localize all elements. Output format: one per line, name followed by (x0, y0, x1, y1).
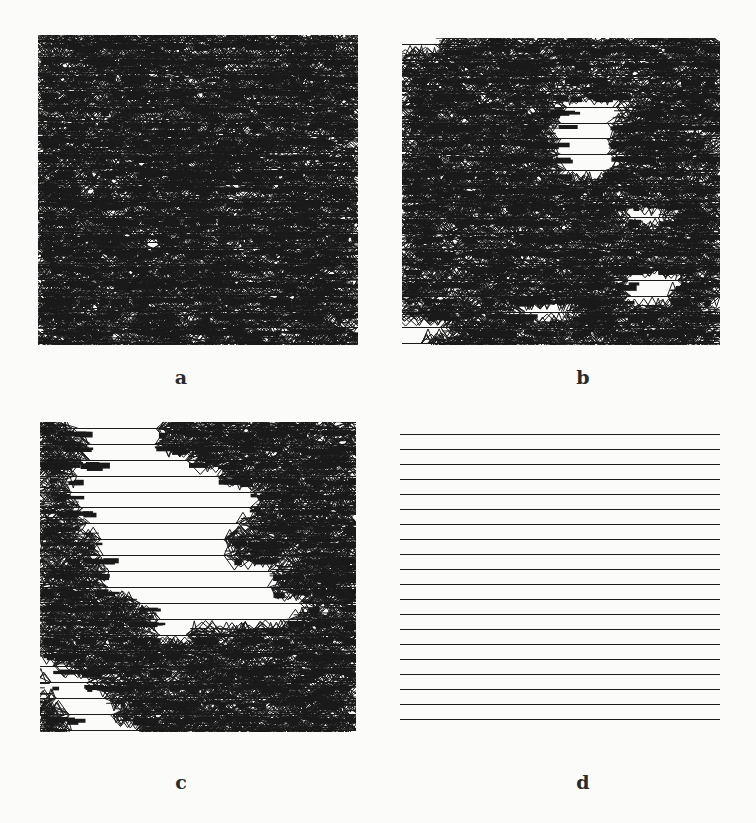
panel-b-canvas (402, 38, 720, 345)
panel-label-c: c (175, 771, 187, 793)
panel-c-canvas (40, 422, 356, 732)
panel-label-a: a (175, 366, 187, 388)
panel-a-canvas (38, 35, 358, 345)
panel-d-canvas (400, 428, 720, 721)
panel-a-dense-pattern (38, 35, 358, 345)
panel-c-pattern-with-hole (40, 422, 356, 732)
panel-label-d: d (576, 771, 589, 793)
panel-d-horizontal-lines (400, 428, 720, 721)
panel-label-b: b (576, 366, 589, 388)
panel-b-pattern-with-gaps (402, 38, 720, 345)
